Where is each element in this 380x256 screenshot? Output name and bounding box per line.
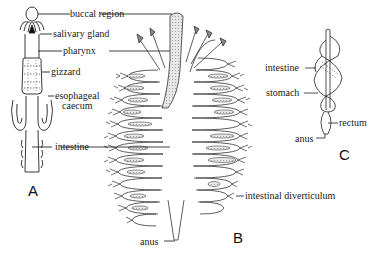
panel-letter-c: C	[339, 147, 350, 163]
label-buccal-region: buccal region	[70, 8, 124, 19]
label-esophageal-caecum-line2: caecum	[62, 100, 93, 111]
label-rectum: rectum	[339, 117, 367, 128]
label-pharynx: pharynx	[63, 45, 96, 56]
label-intestine-c: intestine	[265, 62, 299, 73]
label-anus-b: anus	[140, 236, 158, 247]
label-salivary-gland: salivary gland	[53, 28, 109, 39]
digestive-system-figure: buccal region salivary gland pharynx giz…	[0, 0, 380, 256]
panel-c-drawing	[304, 29, 342, 138]
label-anus-c: anus	[295, 133, 313, 144]
panel-letter-a: A	[28, 183, 38, 199]
label-intestinal-diverticulum: intestinal diverticulum	[245, 190, 335, 201]
label-intestine-a: intestine	[55, 141, 89, 152]
label-gizzard: gizzard	[51, 66, 80, 77]
panel-letter-b: B	[233, 230, 243, 246]
label-stomach: stomach	[266, 87, 299, 98]
